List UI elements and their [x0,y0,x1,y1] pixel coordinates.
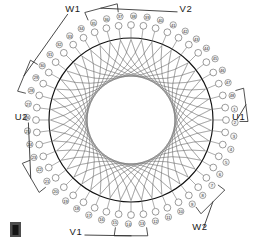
stator-slot [33,129,40,136]
winding-arc [161,46,209,141]
coil-end-connector [119,200,120,211]
coil-end-connector [42,141,52,144]
terminal-label-w1: W1 [65,3,80,14]
winding-arc [57,42,152,90]
slot-number-label: 41 [171,23,176,28]
stator-slot [36,141,43,148]
coil-end-connector [195,64,204,71]
stator-slot [80,199,87,206]
slot-number-label: 31 [48,52,53,57]
winding-arc [161,99,209,194]
stator-winding-figure: 1234567891011121314151617181920212223242… [0,0,260,241]
coil-end-connector [201,161,210,166]
slot-number-label: 19 [63,199,68,204]
stator-slot [33,104,40,111]
coil-end-connector [209,141,219,144]
coil-end-connector [206,85,216,89]
winding-arc [57,150,152,198]
coil-end-connector [58,169,67,176]
slot-number-label: 29 [34,75,39,80]
slot-number-label: 15 [113,220,118,225]
coil-end-connector [107,198,110,208]
stator-slot [222,129,229,136]
winding-arc [57,42,152,90]
slot-number-label: 48 [230,93,235,98]
stator-slot [152,208,159,215]
coil-end-connector [142,29,143,40]
slot-number-label: 13 [140,221,145,226]
stator-slot [103,208,110,215]
stator-slot [52,174,59,181]
stator-slot [203,174,210,181]
winding-arc [161,99,209,194]
stator-slot [223,117,230,124]
slot-number-label: 46 [220,68,225,73]
winding-arc [110,150,205,198]
coil-end-connector [46,151,56,155]
stator-slot [164,204,171,211]
terminal-bracket-u2[interactable] [22,160,45,192]
slot-number-label: 22 [37,167,42,172]
slot-number-label: 18 [74,206,79,211]
stator-slot [219,141,226,148]
coil-end-connector [46,85,56,89]
coil-end-connector [52,74,61,79]
terminal-lead-v1[interactable] [85,235,131,236]
winding-arc-group [51,40,212,201]
coil-end-connector [195,169,204,176]
stator-slot [210,164,217,171]
coil-end-connector [211,108,222,109]
page-corner-marker-inner [13,225,19,235]
coil-end-connector [40,108,51,109]
stator-slot [91,29,98,36]
stator-slot [36,92,43,99]
slot-number-label: 32 [57,42,62,47]
coil-end-connector [152,198,155,208]
slot-number-label: 17 [87,213,92,218]
terminal-bracket-v2[interactable] [85,4,118,21]
coil-end-connector [211,131,222,132]
slot-number-label: 37 [118,14,123,19]
stator-slot [195,184,202,191]
coil-end-connector [107,31,110,41]
stator-slot [60,49,67,56]
coil-end-connector [188,177,196,185]
terminal-label-v2: V2 [180,3,193,14]
stator-winding-diagram: 1234567891011121314151617181920212223242… [0,0,260,241]
coil-end-connector [75,184,82,193]
stator-slot [210,69,217,76]
stator-slot [175,34,182,41]
slot-number-label: 28 [29,88,34,93]
slot-number-label: 21 [45,179,50,184]
page-corner-marker [10,222,21,237]
stator-slot [164,29,171,36]
slot-number-label: 42 [183,29,188,34]
stator-slot [128,22,135,29]
stator-slot [45,69,52,76]
winding-arc [110,150,205,198]
slot-number-label: 12 [153,219,158,224]
stator-slot [152,25,159,32]
coil-end-connector [85,41,90,50]
stator-slot [215,80,222,87]
stator-slot [203,59,210,66]
slot-number-label: 36 [104,17,109,22]
slot-number-label: 27 [26,102,31,107]
coil-end-connector [172,190,177,199]
coil-end-connector [66,55,74,63]
slot-number-label: 14 [126,222,131,227]
coil-end-connector [66,177,74,185]
stator-slot [195,49,202,56]
terminal-lead-v2[interactable] [101,8,177,12]
coil-end-group [39,28,223,212]
winding-arc [53,99,101,194]
stator-slot [60,184,67,191]
stator-slot [40,153,47,160]
terminal-bracket-v1[interactable] [114,227,148,235]
coil-end-connector [209,96,219,99]
stator-slot [80,34,87,41]
terminal-label-u2: U2 [15,111,28,122]
slot-number-label: 45 [213,56,218,61]
slot-number-label: 40 [158,18,163,23]
coil-end-connector [180,184,187,193]
